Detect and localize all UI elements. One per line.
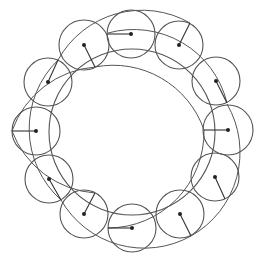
ring-circle-left	[12, 107, 60, 155]
arc-left-upper	[29, 60, 61, 200]
center-dot	[82, 212, 86, 216]
ring-circles	[12, 10, 253, 252]
center-dot	[226, 128, 230, 132]
center-dot	[214, 79, 218, 83]
arc-top	[95, 65, 204, 130]
circle-ring-figure	[0, 0, 264, 263]
center-dot	[46, 80, 50, 84]
radius-line	[179, 23, 190, 45]
envelope-arcs	[12, 10, 240, 248]
center-dot	[47, 177, 51, 181]
arc-top-left	[58, 10, 190, 60]
ring-circle-bottom-left	[60, 190, 108, 238]
center-dot	[34, 129, 38, 133]
ring-circle-upper-left	[24, 58, 72, 106]
ring-circle-lower-right	[191, 153, 239, 201]
center-dot	[177, 43, 181, 47]
ring-circle-bottom-right	[156, 190, 204, 238]
center-dot	[130, 226, 134, 230]
inner-circle	[49, 49, 215, 215]
radius-line	[215, 177, 225, 199]
ring-circle-top-right	[155, 21, 203, 69]
center-dot	[213, 175, 217, 179]
radius-line	[180, 214, 191, 236]
arc-left-lower	[12, 131, 95, 193]
ring-circle-bottom	[108, 204, 156, 252]
ring-circle-top-left	[59, 20, 109, 70]
ring-circle-top	[107, 10, 155, 58]
center-dot	[178, 212, 182, 216]
arc-bottom-left	[61, 200, 191, 248]
diagram-canvas	[0, 0, 264, 263]
radius-line	[216, 81, 227, 103]
ring-circle-lower-left	[25, 155, 73, 203]
center-dot	[82, 43, 86, 47]
ring-circle-right	[203, 105, 253, 155]
radius-line	[84, 193, 95, 214]
ring-circle-upper-right	[192, 57, 240, 105]
arc-right-bottom	[191, 104, 240, 236]
center-dot	[129, 32, 133, 36]
